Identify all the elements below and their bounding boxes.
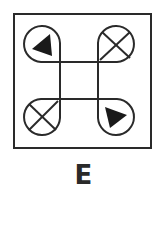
- x-cross-icon: [100, 32, 130, 60]
- triangle-up-left-icon: [32, 34, 52, 56]
- figure-label: E: [0, 160, 167, 190]
- triangle-down-right-icon: [105, 107, 127, 128]
- inner-square: [60, 62, 98, 99]
- x-cross-icon: [29, 101, 58, 130]
